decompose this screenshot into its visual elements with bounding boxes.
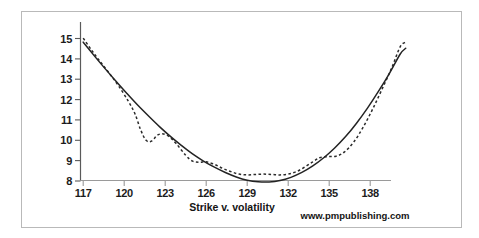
- watermark-label: www.pmpublishing.com: [300, 210, 410, 221]
- y-tick-label: 8: [66, 175, 72, 187]
- y-axis-tick-labels: 15 14 13 12 11 10 9 8: [60, 33, 73, 188]
- data-series-group: [83, 38, 406, 182]
- y-axis-tick-marks: [75, 39, 81, 182]
- series-line-fitted-smile: [83, 42, 406, 182]
- x-tick-label: 138: [361, 187, 379, 199]
- x-tick-label: 129: [238, 187, 256, 199]
- x-tick-label: 117: [75, 187, 92, 199]
- y-tick-label: 14: [60, 53, 73, 65]
- x-axis-title: Strike v. volatility: [189, 201, 275, 213]
- x-tick-label: 135: [320, 187, 338, 199]
- y-tick-label: 11: [61, 114, 72, 126]
- chart-canvas: 15 14 13 12 11 10 9 8 117 120 123 126 12…: [0, 0, 479, 238]
- y-tick-label: 10: [60, 134, 72, 146]
- x-axis-tick-marks: [83, 181, 370, 187]
- x-tick-label: 123: [156, 187, 174, 199]
- x-tick-label: 120: [115, 187, 133, 199]
- y-tick-label: 12: [60, 94, 72, 106]
- x-axis-tick-labels: 117 120 123 126 129 132 135 138: [75, 187, 379, 199]
- x-tick-label: 132: [279, 187, 297, 199]
- series-line-market-quotes: [83, 38, 406, 175]
- figure-root: 15 14 13 12 11 10 9 8 117 120 123 126 12…: [0, 0, 479, 238]
- x-tick-label: 126: [197, 187, 215, 199]
- axes-group: [81, 22, 392, 181]
- y-tick-label: 9: [66, 155, 72, 167]
- y-tick-label: 15: [60, 33, 72, 45]
- y-tick-label: 13: [60, 73, 72, 85]
